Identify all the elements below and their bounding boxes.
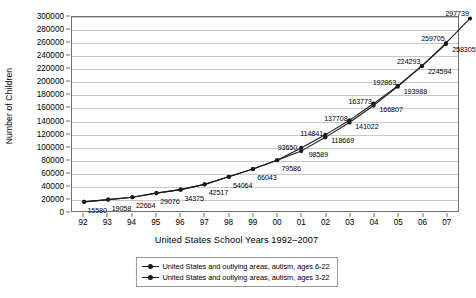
x-tick-label: 95 [151, 218, 160, 227]
data-point-marker [396, 84, 400, 88]
y-tick-label: 300000 [37, 12, 64, 21]
y-tick-mark [66, 198, 70, 199]
data-label-ages-3-22: 193988 [404, 87, 427, 96]
y-axis-ticks: 0200004000060000800001000001200001400001… [0, 16, 69, 212]
x-tick-mark [349, 213, 350, 217]
data-point-marker [106, 198, 110, 202]
legend-item-label: United States and outlying areas, autism… [162, 273, 329, 282]
data-label-ages-6-22: 192863 [373, 77, 396, 86]
y-tick-mark [66, 16, 70, 17]
x-tick-label: 96 [176, 218, 185, 227]
data-label-shared: 22664 [136, 201, 156, 210]
data-label-ages-3-22: 141022 [355, 121, 378, 130]
x-tick-mark [325, 213, 326, 217]
x-tick-mark [398, 213, 399, 217]
x-tick-mark [155, 213, 156, 217]
x-tick-mark [446, 213, 447, 217]
x-tick-label: 05 [394, 218, 403, 227]
legend-item-ages-3-22: United States and outlying areas, autism… [141, 272, 329, 283]
data-point-marker [275, 158, 279, 162]
x-tick-label: 98 [224, 218, 233, 227]
y-tick-mark [66, 42, 70, 43]
x-tick-label: 07 [442, 218, 451, 227]
data-label-ages-6-22: 137708 [324, 114, 347, 123]
y-tick-label: 220000 [37, 64, 64, 73]
y-tick-mark [66, 68, 70, 69]
y-tick-label: 40000 [41, 181, 64, 190]
x-tick-mark [277, 213, 278, 217]
data-point-marker [323, 133, 327, 137]
x-tick-mark [107, 213, 108, 217]
y-tick-mark [66, 94, 70, 95]
y-tick-mark [66, 159, 70, 160]
y-tick-mark [66, 146, 70, 147]
x-axis-ticks: 92939495969798990001020304050607 [71, 213, 459, 229]
data-label-shared: 54064 [233, 180, 253, 189]
x-tick-mark [180, 213, 181, 217]
y-tick-label: 140000 [37, 116, 64, 125]
data-label-ages-6-22: 224293 [397, 57, 420, 66]
x-tick-label: 00 [273, 218, 282, 227]
data-label-ages-6-22: 93650 [278, 142, 298, 151]
y-tick-label: 100000 [37, 142, 64, 151]
y-tick-label: 60000 [41, 168, 64, 177]
data-label-shared: 79586 [281, 164, 301, 173]
legend-item-label: United States and outlying areas, autism… [162, 262, 329, 271]
data-label-ages-3-22: 224594 [428, 67, 451, 76]
y-tick-mark [66, 29, 70, 30]
x-tick-mark [131, 213, 132, 217]
y-tick-mark [66, 212, 70, 213]
x-tick-label: 06 [418, 218, 427, 227]
data-label-shared: 42517 [209, 188, 229, 197]
x-tick-mark [252, 213, 253, 217]
data-label-ages-6-22: 114841 [300, 128, 323, 137]
data-label-shared: 66043 [257, 172, 277, 181]
y-tick-mark [66, 107, 70, 108]
x-tick-mark [83, 213, 84, 217]
data-point-marker [420, 64, 424, 68]
x-axis-title: United States School Years 1992–2007 [0, 235, 473, 245]
data-point-marker [347, 118, 351, 122]
x-tick-mark [374, 213, 375, 217]
y-tick-label: 240000 [37, 51, 64, 60]
legend-marker-icon [141, 262, 158, 271]
x-tick-mark [422, 213, 423, 217]
y-tick-mark [66, 172, 70, 173]
y-tick-mark [66, 185, 70, 186]
data-point-marker [82, 200, 86, 204]
data-point-marker [130, 195, 134, 199]
x-tick-label: 04 [370, 218, 379, 227]
data-label-ages-3-22: 98589 [309, 149, 329, 158]
x-tick-label: 02 [321, 218, 330, 227]
y-tick-mark [66, 133, 70, 134]
legend-item-ages-6-22: United States and outlying areas, autism… [141, 261, 329, 272]
data-label-ages-3-22: 166807 [379, 105, 402, 114]
x-tick-label: 94 [127, 218, 136, 227]
y-tick-label: 20000 [41, 194, 64, 203]
y-tick-label: 260000 [37, 38, 64, 47]
x-tick-label: 93 [103, 218, 112, 227]
data-point-marker [227, 175, 231, 179]
data-point-marker [203, 182, 207, 186]
data-label-ages-6-22: 297739 [445, 9, 468, 18]
data-label-shared: 34375 [184, 193, 204, 202]
data-point-marker [154, 191, 158, 195]
data-label-ages-3-22: 258305 [452, 45, 475, 54]
x-tick-mark [228, 213, 229, 217]
data-point-marker [178, 188, 182, 192]
y-tick-mark [66, 120, 70, 121]
legend-marker-icon [141, 273, 158, 282]
series-lines [72, 17, 458, 212]
x-tick-label: 99 [248, 218, 257, 227]
data-point-marker [371, 101, 375, 105]
data-label-ages-3-22: 118669 [331, 136, 354, 145]
plot-area: 1558019058226642907634375425175406466043… [71, 16, 459, 212]
y-tick-mark [66, 81, 70, 82]
y-tick-label: 160000 [37, 103, 64, 112]
x-tick-label: 03 [345, 218, 354, 227]
x-tick-label: 01 [297, 218, 306, 227]
data-label-ages-6-22: 259705 [421, 34, 444, 43]
legend: United States and outlying areas, autism… [135, 257, 337, 287]
y-tick-mark [66, 55, 70, 56]
